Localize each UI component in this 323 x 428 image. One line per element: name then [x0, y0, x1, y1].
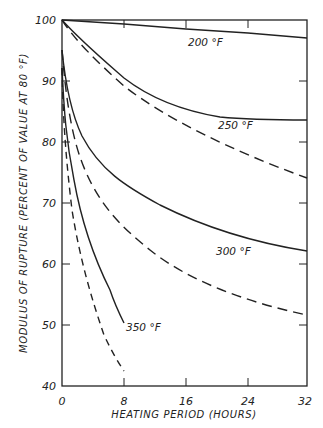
y-tick-50: 50 [42, 319, 56, 332]
label-350F: 350 °F [126, 321, 162, 333]
label-300F: 300 °F [216, 245, 252, 257]
x-tick-0: 0 [59, 395, 66, 408]
y-tick-70: 70 [42, 197, 56, 210]
x-tick-8: 8 [121, 395, 128, 408]
x-axis-title: HEATING PERIOD (HOURS) [111, 409, 256, 420]
y-tick-90: 90 [42, 75, 56, 88]
plot-frame [62, 20, 307, 386]
curve-200F [62, 20, 307, 38]
chart: 200 °F 250 °F 300 °F 350 °F 0 8 16 24 32… [0, 0, 323, 428]
curve-350F-dashed [62, 68, 124, 371]
label-250F: 250 °F [218, 119, 254, 131]
y-tick-60: 60 [42, 258, 56, 271]
curve-300F-solid [62, 50, 307, 251]
y-axis-title: MODULUS OF RUPTURE (PERCENT OF VALUE AT … [18, 53, 29, 353]
x-tick-32: 32 [298, 395, 312, 408]
y-tick-100: 100 [35, 14, 56, 27]
y-tick-80: 80 [42, 136, 56, 149]
y-ticks [62, 81, 307, 325]
label-200F: 200 °F [188, 36, 224, 48]
y-tick-40: 40 [42, 380, 56, 393]
curve-300F-dashed [62, 50, 307, 315]
x-tick-24: 24 [241, 395, 255, 408]
x-tick-16: 16 [179, 395, 193, 408]
curve-250F-dashed [62, 20, 307, 178]
